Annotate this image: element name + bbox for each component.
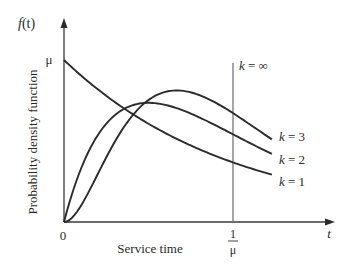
x-tick-one-over-mu: 1 μ bbox=[228, 227, 238, 257]
x-tick-numerator: 1 bbox=[230, 227, 236, 241]
curve-k3 bbox=[64, 90, 272, 222]
x-tick-zero: 0 bbox=[60, 228, 67, 243]
label-k1: k = 1 bbox=[279, 174, 305, 189]
x-axis-symbol: t bbox=[327, 226, 331, 241]
y-axis-arrow-icon bbox=[61, 18, 68, 28]
x-tick-denominator: μ bbox=[230, 243, 236, 257]
y-axis-label: Probability density function bbox=[25, 69, 40, 215]
curve-k2 bbox=[64, 103, 272, 222]
label-k2: k = 2 bbox=[279, 152, 305, 167]
label-k-infinity: k = ∞ bbox=[239, 58, 268, 73]
erlang-density-chart: f(t) μ Probability density function 0 1 … bbox=[0, 0, 348, 265]
label-k3: k = 3 bbox=[279, 129, 305, 144]
y-tick-mu: μ bbox=[46, 52, 53, 67]
x-axis-label: Service time bbox=[117, 241, 183, 256]
y-axis-symbol: f(t) bbox=[18, 16, 35, 32]
x-axis-arrow-icon bbox=[325, 219, 335, 226]
